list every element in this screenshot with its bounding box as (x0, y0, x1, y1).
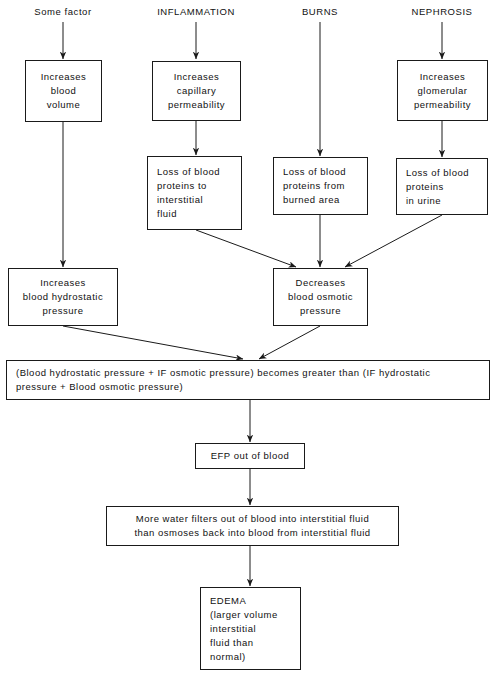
node-more-water-filters: More water filters out of blood into int… (106, 506, 399, 546)
node-line: pressure (296, 304, 345, 318)
node-line: Loss of blood (274, 165, 346, 179)
node-line: than osmoses back into blood from inters… (130, 526, 374, 540)
node-line: (Blood hydrostatic pressure + IF osmotic… (7, 366, 430, 380)
node-line: glomerular (414, 84, 472, 98)
source-label-inflammation: INFLAMMATION (146, 6, 246, 17)
node-line: proteins (397, 180, 444, 194)
node-line: interstitial (201, 622, 256, 636)
node-line: pressure (39, 304, 88, 318)
node-line: pressure + Blood osmotic pressure) (7, 380, 183, 394)
node-efp-out-of-blood: EFP out of blood (195, 443, 305, 469)
node-line: Decreases (292, 276, 350, 290)
node-decreases-blood-osmotic-pressure: Decreases blood osmotic pressure (273, 268, 368, 326)
edge-hydrostatic-to-equation (63, 326, 243, 359)
node-loss-proteins-interstitial: Loss of blood proteins to interstitial f… (147, 156, 242, 230)
node-line: proteins from (274, 179, 345, 193)
source-label-nephrosis: NEPHROSIS (398, 6, 486, 17)
flowchart-canvas: Some factor INFLAMMATION BURNS NEPHROSIS… (0, 0, 497, 682)
node-line: normal) (201, 650, 246, 664)
source-label-burns: BURNS (285, 6, 355, 17)
edge-osmotic-to-equation (259, 326, 320, 359)
node-line: blood (47, 84, 81, 98)
node-line: permeability (410, 98, 475, 112)
node-increases-capillary-permeability: Increases capillary permeability (152, 61, 241, 121)
node-line: blood hydrostatic (19, 290, 107, 304)
node-line: blood osmotic (284, 290, 357, 304)
node-line: permeability (164, 98, 229, 112)
node-line: (larger volume (201, 608, 278, 622)
node-line: in urine (397, 194, 441, 208)
node-line: EDEMA (201, 594, 246, 608)
node-line: Increases (416, 70, 470, 84)
node-line: interstitial (148, 193, 203, 207)
edge-loss-urine-to-osmotic (345, 215, 442, 267)
node-increases-blood-hydrostatic-pressure: Increases blood hydrostatic pressure (8, 268, 118, 326)
node-loss-proteins-burned-area: Loss of blood proteins from burned area (273, 157, 368, 215)
node-line: Loss of blood (148, 165, 220, 179)
node-line: burned area (274, 193, 340, 207)
node-line: Increases (36, 276, 90, 290)
node-loss-proteins-in-urine: Loss of blood proteins in urine (396, 158, 488, 215)
edge-loss-interstitial-to-osmotic (196, 230, 296, 267)
node-pressure-equation: (Blood hydrostatic pressure + IF osmotic… (6, 360, 490, 400)
node-increases-blood-volume: Increases blood volume (25, 60, 102, 122)
node-line: fluid than (201, 636, 254, 650)
node-increases-glomerular-permeability: Increases glomerular permeability (397, 60, 488, 121)
node-edema: EDEMA (larger volume interstitial fluid … (200, 587, 301, 670)
node-line: More water filters out of blood into int… (132, 512, 373, 526)
node-line: Loss of blood (397, 166, 469, 180)
source-label-some-factor: Some factor (20, 6, 106, 17)
node-line: fluid (148, 207, 177, 221)
node-line: EFP out of blood (207, 449, 294, 463)
node-line: Increases (170, 70, 224, 84)
node-line: proteins to (148, 179, 207, 193)
node-line: capillary (173, 84, 220, 98)
node-line: Increases (37, 70, 91, 84)
node-line: volume (43, 98, 85, 112)
